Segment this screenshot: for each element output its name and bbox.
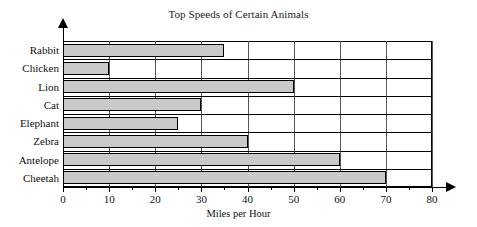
band-separator xyxy=(63,96,432,97)
y-label-antelope: Antelope xyxy=(0,154,59,166)
gridline-80 xyxy=(432,41,433,187)
band-separator xyxy=(63,59,432,60)
band-separator xyxy=(63,78,432,79)
xtick-30 xyxy=(201,187,202,192)
xtick-10 xyxy=(109,187,110,192)
xtick-minor-5 xyxy=(86,187,87,190)
y-label-cat: Cat xyxy=(0,99,59,111)
xtick-40 xyxy=(248,187,249,192)
y-label-zebra: Zebra xyxy=(0,135,59,147)
xtick-minor-65 xyxy=(363,187,364,190)
xtick-minor-35 xyxy=(224,187,225,190)
bar-chicken xyxy=(63,62,109,75)
xtick-80 xyxy=(432,187,433,192)
band-separator xyxy=(63,151,432,152)
bar-cheetah xyxy=(63,171,386,184)
y-label-lion: Lion xyxy=(0,81,59,93)
xtick-minor-55 xyxy=(317,187,318,190)
band-separator xyxy=(63,114,432,115)
xtick-50 xyxy=(294,187,295,192)
x-axis-line xyxy=(63,187,448,188)
xtick-label-60: 60 xyxy=(320,193,360,205)
y-label-chicken: Chicken xyxy=(0,62,59,74)
y-label-rabbit: Rabbit xyxy=(0,44,59,56)
chart-page: Top Speeds of Certain Animals 0102030405… xyxy=(0,0,477,227)
xtick-label-50: 50 xyxy=(274,193,314,205)
xtick-0 xyxy=(63,187,64,192)
bar-lion xyxy=(63,80,294,93)
band-separator xyxy=(63,169,432,170)
band-separator xyxy=(63,132,432,133)
xtick-60 xyxy=(340,187,341,192)
xtick-minor-15 xyxy=(132,187,133,190)
xtick-70 xyxy=(386,187,387,192)
y-label-elephant: Elephant xyxy=(0,117,59,129)
xtick-minor-45 xyxy=(271,187,272,190)
bar-antelope xyxy=(63,153,340,166)
x-axis-arrowhead xyxy=(446,182,456,192)
xtick-minor-25 xyxy=(178,187,179,190)
xtick-label-20: 20 xyxy=(135,193,175,205)
xtick-label-0: 0 xyxy=(43,193,83,205)
x-axis-title: Miles per Hour xyxy=(0,208,477,219)
y-label-cheetah: Cheetah xyxy=(0,172,59,184)
bar-elephant xyxy=(63,117,178,130)
xtick-label-80: 80 xyxy=(412,193,452,205)
xtick-label-70: 70 xyxy=(366,193,406,205)
bar-cat xyxy=(63,98,201,111)
xtick-20 xyxy=(155,187,156,192)
xtick-label-30: 30 xyxy=(181,193,221,205)
plot-area xyxy=(63,41,432,187)
chart-title: Top Speeds of Certain Animals xyxy=(0,8,477,20)
xtick-label-40: 40 xyxy=(228,193,268,205)
bar-zebra xyxy=(63,135,248,148)
xtick-minor-75 xyxy=(409,187,410,190)
bar-rabbit xyxy=(63,44,224,57)
xtick-label-10: 10 xyxy=(89,193,129,205)
